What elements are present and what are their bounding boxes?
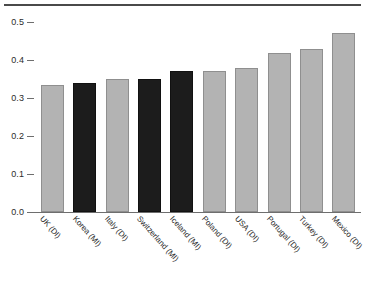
x-axis-label-group: UK (DI)Korea (MI)Italy (DI)Switzerland (…: [0, 0, 368, 284]
x-axis-tick-label: Italy (DI): [103, 215, 129, 243]
x-axis-tick-label: USA (DI): [233, 215, 260, 244]
plot-area: 0.50.40.30.20.10.0 UK (DI)Korea (MI)Ital…: [0, 0, 368, 284]
x-axis-tick-label: Turkey (DI): [297, 215, 330, 250]
x-axis-tick-label: UK (DI): [38, 215, 62, 240]
x-axis-tick-label: Iceland (MI): [168, 215, 202, 252]
chart-figure: 0.50.40.30.20.10.0 UK (DI)Korea (MI)Ital…: [0, 0, 368, 284]
x-axis-tick-label: Mexico (DI): [330, 215, 363, 251]
x-axis-tick-label: Poland (DI): [200, 215, 233, 250]
x-axis-tick-label: Portugal (DI): [265, 215, 301, 254]
x-axis-tick-label: Korea (MI): [71, 215, 102, 248]
